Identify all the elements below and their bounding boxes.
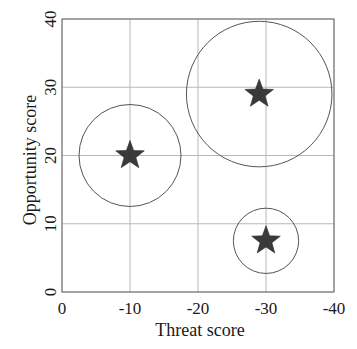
x-tick-label: -20 (187, 299, 210, 318)
x-tick-label: -10 (119, 299, 142, 318)
x-axis-ticks: 0-10-20-30-40 (58, 299, 346, 318)
y-tick-label: 0 (41, 288, 60, 297)
x-axis-label: Threat score (155, 320, 244, 340)
x-tick-label: -30 (255, 299, 278, 318)
x-tick-label: 0 (58, 299, 67, 318)
grid-lines (62, 19, 334, 292)
y-axis-ticks: 010203040 (41, 11, 60, 297)
range-circles (79, 21, 332, 273)
x-tick-label: -40 (323, 299, 346, 318)
y-tick-label: 30 (41, 79, 60, 96)
point-label: 1 (128, 152, 133, 162)
bubble-star-chart: 123 0-10-20-30-40 010203040 Threat score… (0, 0, 357, 349)
y-tick-label: 10 (41, 215, 60, 232)
y-axis-label: Opportunity score (20, 95, 40, 225)
y-tick-label: 20 (41, 147, 60, 164)
y-tick-label: 40 (41, 11, 60, 28)
point-label: 2 (264, 237, 269, 247)
point-label: 3 (257, 90, 262, 100)
